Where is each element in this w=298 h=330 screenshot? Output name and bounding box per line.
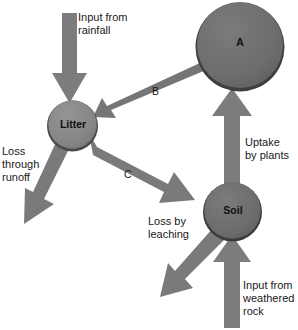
edge-label-c: C — [124, 168, 132, 180]
edge-label-b: B — [152, 85, 159, 97]
flow-label-loss-by-leaching: Loss by leaching — [148, 215, 189, 241]
flow-label-input-from-weathered-rock: Input from weathered rock — [243, 279, 294, 318]
flow-label-uptake-by-plants: Uptake by plants — [245, 136, 289, 162]
arrow-edge-b — [93, 62, 206, 118]
flow-label-input-from-rainfall: Input from rainfall — [78, 11, 128, 37]
nutrient-cycle-diagram: A Litter Soil Input from rainfall Loss t… — [0, 0, 298, 330]
node-a[interactable] — [196, 2, 285, 92]
flow-label-loss-through-runoff: Loss through runoff — [2, 145, 39, 184]
arrow-edge-c — [89, 133, 195, 203]
node-litter[interactable] — [47, 100, 98, 151]
node-soil[interactable] — [203, 182, 262, 241]
